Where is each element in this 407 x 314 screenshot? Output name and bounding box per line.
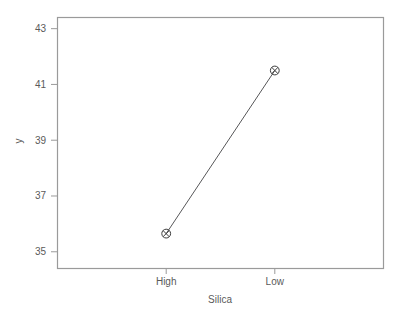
chart-container: 43 41 39 37 35 y High Low Silica bbox=[0, 0, 407, 314]
y-tick-label-39: 39 bbox=[35, 135, 47, 146]
y-tick-label-43: 43 bbox=[35, 23, 47, 34]
x-tick-label-low: Low bbox=[266, 276, 285, 287]
series-line-y bbox=[166, 71, 275, 234]
y-tick-label-41: 41 bbox=[35, 79, 47, 90]
data-point-low bbox=[270, 66, 279, 75]
y-tick-label-37: 37 bbox=[35, 190, 47, 201]
plot-frame bbox=[58, 18, 384, 269]
x-tick-label-high: High bbox=[156, 276, 177, 287]
data-point-high bbox=[162, 229, 171, 238]
x-axis-ticks bbox=[166, 269, 275, 275]
y-axis-ticks bbox=[51, 29, 58, 252]
y-tick-label-35: 35 bbox=[35, 246, 47, 257]
line-chart-plot: 43 41 39 37 35 y High Low Silica bbox=[0, 0, 407, 314]
x-axis-title: Silica bbox=[208, 294, 232, 305]
y-axis-title: y bbox=[13, 139, 24, 144]
